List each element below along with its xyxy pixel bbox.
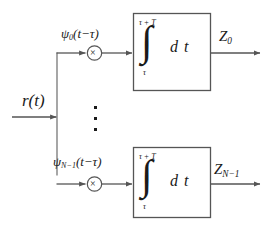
- branch-0-integral-lower-limit: τ: [143, 68, 146, 77]
- ellipsis-dot: [94, 106, 97, 109]
- branch-n-minus-1-integral-lower-limit: τ: [143, 202, 146, 211]
- branch-n-minus-1-integral-symbol: ∫: [141, 154, 153, 196]
- branch-0-multiplier-glyph: ×: [90, 47, 96, 58]
- branch-n-minus-1-basis-label: ψN−1(t−τ): [53, 155, 102, 170]
- branch-0-output-subscript: 0: [227, 36, 232, 46]
- input-signal-label: r(t): [22, 92, 45, 109]
- block-diagram-canvas: r(t) ψ0(t−τ) ψN−1(t−τ) × × τ + T ∫ τ d t…: [0, 0, 268, 234]
- branch-n-minus-1-output-label: ZN−1: [214, 162, 239, 179]
- branch-0-output-label: Z0: [219, 29, 232, 46]
- branch-n-minus-1-multiplier-glyph: ×: [90, 178, 96, 189]
- branch-0-basis-argument: (t−τ): [73, 26, 99, 41]
- branch-0-basis-label: ψ0(t−τ): [61, 27, 99, 42]
- branch-0-differential-label: d t: [170, 38, 189, 56]
- branch-n-minus-1-basis-argument: (t−τ): [76, 154, 102, 169]
- branch-n-minus-1-output-subscript: N−1: [222, 169, 239, 179]
- branch-0-integral-symbol: ∫: [141, 20, 153, 62]
- ellipsis-dot: [94, 117, 97, 120]
- branch-n-minus-1-differential-label: d t: [170, 172, 189, 190]
- branch-n-minus-1-basis-subscript: N−1: [61, 161, 76, 170]
- ellipsis-dot: [94, 128, 97, 131]
- vertical-ellipsis-icon: [92, 106, 98, 131]
